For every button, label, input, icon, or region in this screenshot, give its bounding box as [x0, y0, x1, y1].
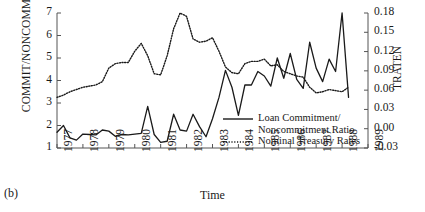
x-axis-tick: 1981 — [166, 129, 178, 152]
legend-label-line1: Loan Commitment/ — [258, 112, 355, 124]
plot-area — [0, 0, 425, 212]
y-axis-right-tick: 0.18 — [374, 5, 408, 17]
figure-panel-b: COMMIT/NONCOMMIT TRATEN 7654321 0.180.15… — [0, 0, 425, 212]
x-axis-tick: 1977 — [62, 129, 74, 152]
y-axis-left-tick: 3 — [36, 95, 52, 107]
legend: Loan Commitment/ Noncommitment Ratio Nom… — [222, 112, 360, 147]
y-axis-right-tick: 0.12 — [374, 44, 408, 56]
x-axis-title: Time — [0, 188, 425, 203]
legend-key-solid-line-icon — [222, 112, 254, 121]
y-axis-left-tick: 4 — [36, 73, 52, 85]
x-axis-tick: 1982 — [192, 129, 204, 152]
x-axis-tick: 1979 — [114, 129, 126, 152]
x-axis-tick: 1980 — [140, 129, 152, 152]
y-axis-left-tick: 5 — [36, 50, 52, 62]
y-axis-left-tick: 6 — [36, 28, 52, 40]
y-axis-left-tick: 2 — [36, 118, 52, 130]
y-axis-right-tick: 0.15 — [374, 24, 408, 36]
legend-item-commitment-ratio: Loan Commitment/ Noncommitment Ratio — [222, 112, 360, 135]
legend-item-treasury-rates: Nominal Treasury Rates — [222, 135, 360, 147]
y-axis-left-title: COMMIT/NONCOMMIT — [20, 0, 32, 120]
y-axis-right-tick: 0.03 — [374, 101, 408, 113]
series-line-treasury-rates — [57, 13, 349, 97]
panel-label: (b) — [4, 186, 18, 201]
y-axis-right-tick: 0.09 — [374, 63, 408, 75]
y-axis-left-tick: 1 — [36, 140, 52, 152]
x-axis-tick: 1989 — [373, 129, 385, 152]
x-axis-tick: 1978 — [88, 129, 100, 152]
y-axis-left-tick: 7 — [36, 5, 52, 17]
legend-label-line1: Nominal Treasury Rates — [258, 135, 360, 147]
y-axis-right-tick: 0.06 — [374, 82, 408, 94]
legend-label-line2: Noncommitment Ratio — [258, 124, 355, 136]
legend-key-dotted-line-icon — [222, 135, 254, 144]
